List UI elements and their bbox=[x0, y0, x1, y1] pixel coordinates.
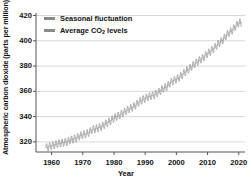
series-average-co2-levels bbox=[46, 23, 242, 148]
axis-ticks bbox=[33, 16, 239, 155]
legend-label-seasonal-fluctuation: Seasonal fluctuation bbox=[60, 15, 132, 22]
legend-item-seasonal-fluctuation: Seasonal fluctuation bbox=[44, 14, 132, 23]
legend-label-average-co2-levels: Average CO2 levels bbox=[60, 27, 128, 34]
series-seasonal-fluctuation bbox=[46, 19, 242, 151]
legend-swatch-average-co2-levels bbox=[44, 29, 55, 32]
co2-keeling-curve-chart: Atmospheric carbon dioxide (parts per mi… bbox=[0, 0, 252, 181]
legend-item-average-co2-levels: Average CO2 levels bbox=[44, 26, 132, 35]
chart-legend: Seasonal fluctuation Average CO2 levels bbox=[44, 14, 132, 35]
legend-swatch-seasonal-fluctuation bbox=[44, 17, 55, 20]
data-series-group bbox=[46, 19, 242, 151]
